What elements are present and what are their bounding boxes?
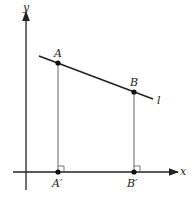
point-A-prime-label: A′ bbox=[51, 177, 63, 190]
point-B bbox=[131, 89, 136, 94]
projection-diagram: y x l A B A′ B′ bbox=[0, 0, 194, 197]
point-B-label: B bbox=[129, 76, 138, 89]
point-A-prime bbox=[55, 169, 60, 174]
point-B-prime bbox=[131, 169, 136, 174]
x-axis-label: x bbox=[180, 165, 187, 178]
point-A bbox=[55, 60, 60, 65]
line-l-label: l bbox=[157, 94, 161, 107]
point-A-label: A bbox=[53, 47, 62, 60]
y-axis-label: y bbox=[22, 1, 30, 14]
point-B-prime-label: B′ bbox=[126, 177, 138, 190]
